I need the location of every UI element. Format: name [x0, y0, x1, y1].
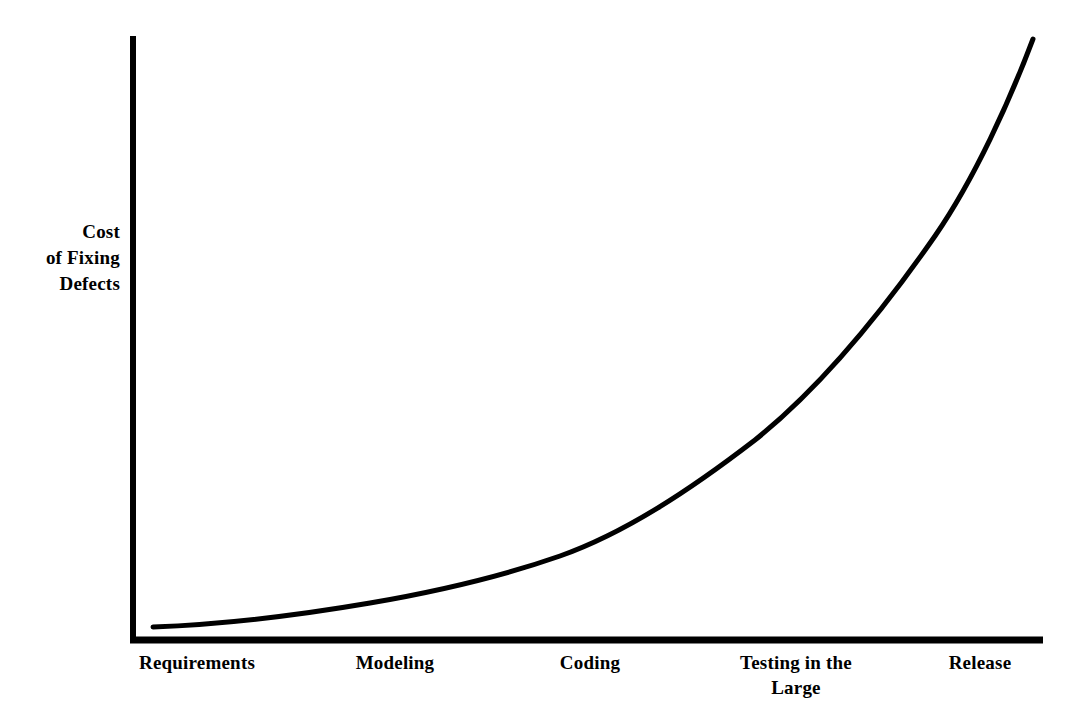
x-axis-tick-label-release: Release	[900, 650, 1060, 675]
x-axis-tick-label-requirements: Requirements	[117, 650, 277, 675]
cost-curve-line	[153, 39, 1033, 627]
y-axis-label-line-1: Cost	[20, 219, 120, 245]
chart-figure: Cost of Fixing Defects Requirements Mode…	[0, 0, 1083, 727]
chart-plot-area	[0, 0, 1083, 727]
x-axis-tick-label-modeling: Modeling	[315, 650, 475, 675]
y-axis-label: Cost of Fixing Defects	[20, 219, 120, 297]
x-axis-tick-label-testing-in-the-large: Testing in the Large	[716, 650, 876, 700]
x-axis-tick-label-coding: Coding	[510, 650, 670, 675]
y-axis-label-line-3: Defects	[20, 271, 120, 297]
y-axis-label-line-2: of Fixing	[20, 245, 120, 271]
